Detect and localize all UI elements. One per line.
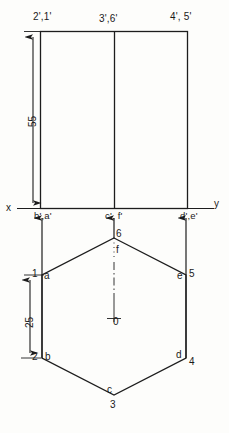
front-view-rectangle <box>41 32 188 209</box>
label-dimension-25: 25 <box>25 317 35 328</box>
label-hex-centre: 0 <box>113 317 119 327</box>
label-hex-top-number: 6 <box>116 229 122 239</box>
engineering-drawing: 2',1' 3',6' 4', 5' b',a' c', f' d',e' x … <box>0 0 229 433</box>
label-hex-bottom-number: 3 <box>110 400 116 410</box>
label-axis-x: x <box>6 203 11 213</box>
label-hex-right-upper-number: 5 <box>189 269 195 279</box>
label-hex-right-lower-number: 4 <box>189 357 195 367</box>
label-hex-top-letter: f <box>116 245 119 255</box>
projection-lines <box>42 218 186 358</box>
label-dimension-55: 55 <box>28 116 38 127</box>
label-axis-y: y <box>214 199 219 209</box>
label-hex-right-upper-letter: e <box>177 271 183 281</box>
label-hex-left-upper-number: 1 <box>32 269 38 279</box>
label-hex-left-lower-number: 2 <box>32 352 38 362</box>
label-hex-left-upper-letter: a <box>44 271 50 281</box>
label-front-bottom-right: d',e' <box>180 211 198 221</box>
label-front-top-right: 4', 5' <box>170 12 192 22</box>
label-hex-left-lower-letter: b <box>45 352 51 362</box>
label-front-top-middle: 3',6' <box>99 14 118 24</box>
label-front-bottom-left: b',a' <box>34 211 52 221</box>
label-front-top-left: 2',1' <box>33 12 52 22</box>
label-front-bottom-middle: c', f' <box>105 211 123 221</box>
label-hex-right-lower-letter: d <box>176 350 182 360</box>
label-hex-bottom-letter: c <box>107 385 112 395</box>
